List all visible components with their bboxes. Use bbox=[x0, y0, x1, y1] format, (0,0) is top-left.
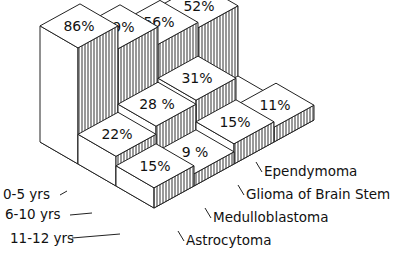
bar-value-label: 86% bbox=[63, 18, 94, 34]
bar-value-label: 31% bbox=[181, 70, 212, 86]
column-label-2: Glioma of Brain Stem bbox=[246, 186, 390, 202]
row-label-1: 6-10 yrs bbox=[5, 206, 61, 222]
chart-3d-bar: 52%56%69%86%31%28 %22%11%15%9 %15% 0-5 y… bbox=[0, 0, 400, 261]
bar-value-label: 11% bbox=[259, 97, 290, 113]
row-label-0: 0-5 yrs bbox=[3, 186, 50, 202]
bar-value-label: 15% bbox=[139, 158, 170, 174]
column-label-3: Ependymoma bbox=[264, 163, 357, 179]
bar-value-label: 28 % bbox=[139, 96, 175, 112]
bar-value-label: 9 % bbox=[182, 144, 209, 160]
bar-value-label: 15% bbox=[219, 114, 250, 130]
row-label-2: 11-12 yrs bbox=[10, 230, 74, 246]
bar-value-label: 22% bbox=[101, 126, 132, 142]
bar-value-label: 52% bbox=[183, 0, 214, 14]
column-label-1: Medulloblastoma bbox=[213, 209, 328, 225]
column-label-0: Astrocytoma bbox=[186, 232, 271, 248]
